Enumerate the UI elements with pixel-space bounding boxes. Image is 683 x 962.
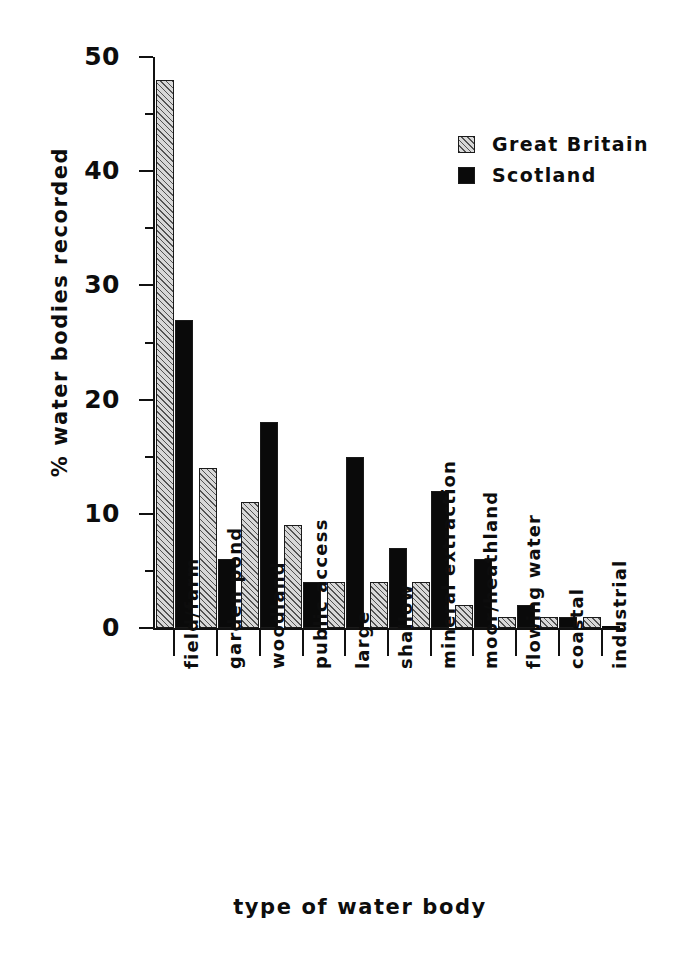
y-tick-label: 30 — [84, 270, 120, 299]
x-category-label: large — [352, 611, 373, 669]
bar-great-britain — [156, 80, 174, 628]
y-tick-major: 40 — [139, 170, 153, 172]
x-tick — [558, 628, 560, 656]
x-axis-title: type of water body — [90, 895, 630, 919]
x-category-label: moor/heathland — [480, 491, 501, 669]
x-tick — [515, 628, 517, 656]
legend-swatch-scotland — [458, 167, 475, 184]
y-tick-label: 40 — [84, 156, 120, 185]
bar-group — [241, 57, 278, 628]
x-category-label: industrial — [609, 560, 630, 669]
bar-group — [370, 57, 407, 628]
y-tick-label: 20 — [84, 384, 120, 413]
x-category-label: mineral extraction — [438, 460, 459, 669]
legend-label-scotland: Scotland — [492, 164, 597, 186]
chart-legend: Great Britain Scotland — [458, 133, 668, 195]
x-tick — [173, 628, 175, 656]
legend-item-scotland: Scotland — [458, 164, 668, 186]
y-tick-minor — [145, 456, 153, 458]
y-tick-major: 50 — [139, 56, 153, 58]
x-category-label: coastal — [566, 588, 587, 669]
y-tick-label: 0 — [102, 613, 120, 642]
y-tick-major: 20 — [139, 399, 153, 401]
x-tick — [472, 628, 474, 656]
x-category-label: public access — [310, 518, 331, 669]
x-category-label: woodland — [267, 561, 288, 669]
y-tick-minor — [145, 227, 153, 229]
legend-item-great-britain: Great Britain — [458, 133, 668, 155]
x-category-label: garden pond — [224, 527, 245, 669]
bar-group — [156, 57, 193, 628]
x-tick — [259, 628, 261, 656]
y-axis-title: % water bodies recorded — [48, 102, 72, 522]
x-tick — [601, 628, 603, 656]
x-tick — [387, 628, 389, 656]
x-category-label: flowing water — [523, 514, 544, 669]
y-tick-minor — [145, 342, 153, 344]
legend-label-great-britain: Great Britain — [492, 133, 649, 155]
y-tick-label: 10 — [84, 498, 120, 527]
legend-swatch-great-britain — [458, 136, 475, 153]
y-tick-major: 0 — [139, 627, 153, 629]
x-category-label: field/farm — [181, 558, 202, 669]
y-tick-major: 10 — [139, 513, 153, 515]
x-tick — [430, 628, 432, 656]
bar-group — [327, 57, 364, 628]
bar-chart-figure: % water bodies recorded type of water bo… — [0, 0, 683, 962]
x-category-label: shallow — [395, 584, 416, 669]
y-tick-major: 30 — [139, 284, 153, 286]
y-tick-minor — [145, 570, 153, 572]
y-tick-label: 50 — [84, 42, 120, 71]
x-tick — [216, 628, 218, 656]
y-tick-minor — [145, 113, 153, 115]
x-tick — [302, 628, 304, 656]
x-tick — [344, 628, 346, 656]
bar-scotland — [346, 457, 364, 628]
